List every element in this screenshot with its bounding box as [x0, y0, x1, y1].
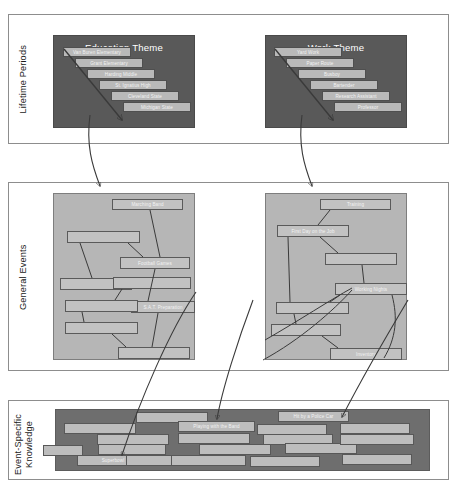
lifetime-item-cleveland-state[interactable]: Cleveland State [111, 91, 179, 101]
lifetime-item-yard-work[interactable]: Yard Work [274, 47, 342, 57]
general-event-working-nights[interactable]: Working Nights [335, 283, 407, 295]
diagram-canvas: Lifetime Periods Education Theme Van Bur… [0, 0, 457, 495]
general-event-education-9[interactable] [118, 347, 190, 359]
lifetime-item-paper-route[interactable]: Paper Route [286, 58, 354, 68]
tier-caption-lifetime-periods: Lifetime Periods [18, 34, 29, 124]
lifetime-item-grant-elementary[interactable]: Grant Elementary [75, 58, 143, 68]
esk-item-15[interactable] [250, 456, 320, 467]
general-event-work-3[interactable] [325, 253, 397, 265]
esk-item-14[interactable] [170, 455, 246, 466]
general-event-math-analysis[interactable] [65, 322, 138, 334]
general-event-work-5[interactable] [276, 302, 349, 314]
lifetime-item-bartender[interactable]: Bartender [310, 80, 378, 90]
esk-item-10[interactable] [98, 444, 166, 455]
esk-item-12[interactable] [199, 444, 271, 455]
esk-item-16[interactable] [342, 454, 412, 465]
general-event-education-2[interactable] [67, 231, 140, 243]
lifetime-item-van-buren-elementary[interactable]: Van Buren Elementary [63, 47, 131, 57]
general-event-training[interactable]: Training [320, 199, 391, 210]
esk-item-6[interactable] [340, 423, 410, 434]
general-event-work-6[interactable] [271, 324, 341, 336]
esk-item-2[interactable] [64, 423, 136, 434]
esk-item-hit-by-a-police-car[interactable]: Hit by a Police Car [278, 411, 349, 422]
general-event-first-day-on-the-job[interactable]: First Day on the Job [277, 225, 349, 237]
lifetime-item-busboy[interactable]: Busboy [298, 69, 366, 79]
lifetime-item-michigan-state[interactable]: Michigan State [123, 102, 191, 112]
lifetime-item-st-ignatius-high[interactable]: St. Ignatius High [99, 80, 167, 90]
lifetime-item-research-assistant[interactable]: Research Assistant [322, 91, 390, 101]
esk-item-playing-with-the-band[interactable]: Playing with the Band [178, 421, 255, 432]
esk-item-8[interactable] [178, 433, 250, 444]
general-event-marching-band[interactable]: Marching Band [112, 199, 183, 210]
general-event-inventory[interactable]: Inventory [330, 348, 402, 360]
lifetime-item-professor[interactable]: Professor [334, 102, 402, 112]
esk-item-19[interactable] [126, 455, 172, 466]
general-event-sat-preparation[interactable]: S.A.T. Preparation [131, 301, 195, 313]
tier-caption-event-specific-knowledge: Event-Specific Knowledge [13, 409, 34, 481]
general-event-education-7[interactable]: Math Analysis [65, 300, 138, 312]
general-event-football-games[interactable]: Football Games [120, 257, 190, 269]
esk-item-18[interactable] [340, 434, 414, 445]
esk-item-17[interactable] [43, 445, 83, 456]
tier-caption-general-events: General Events [18, 237, 29, 317]
lifetime-item-harding-middle[interactable]: Harding Middle [87, 69, 155, 79]
general-event-education-5[interactable] [113, 277, 191, 289]
